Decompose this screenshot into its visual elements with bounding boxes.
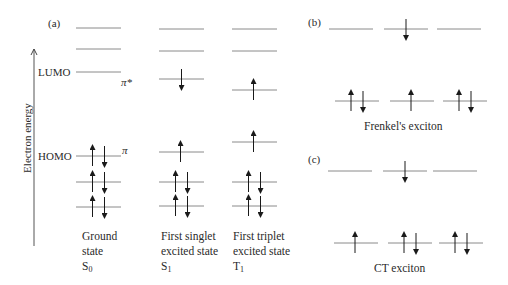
symbol-s1: S1: [161, 259, 218, 277]
ct-upper-level: [383, 161, 427, 180]
energy-level-col3: [232, 196, 277, 216]
caption-first-triplet: First triplet excited state T1: [233, 229, 290, 277]
frenkel-upper-level: [384, 19, 428, 38]
frenkel-lower-level: [335, 91, 379, 111]
panel-a-label: (a): [48, 17, 60, 30]
axis-label-electron-energy: Electron energy: [21, 93, 33, 183]
homo-label: HOMO: [38, 150, 72, 163]
energy-level-col3: [232, 172, 277, 192]
ct-lower-level: [388, 233, 432, 253]
energy-level-col2: [159, 69, 204, 88]
energy-level-col3: [232, 81, 277, 100]
levels-layer: [76, 19, 487, 253]
energy-level-col3: [232, 133, 277, 152]
caption-ground-state: Ground state S0: [82, 229, 117, 277]
panel-b-label: (b): [308, 16, 321, 29]
energy-level-col2: [159, 143, 204, 162]
ct-lower-level: [334, 234, 378, 253]
ct-lower-level: [439, 233, 483, 253]
frenkel-lower-level: [390, 92, 434, 111]
frenkel-lower-level: [443, 91, 487, 111]
energy-level-col2: [159, 196, 204, 216]
energy-level-col2: [159, 172, 204, 192]
energy-level-col1: [76, 172, 121, 192]
caption-first-singlet: First singlet excited state S1: [161, 229, 218, 277]
pi-label: π: [122, 144, 128, 157]
symbol-t1: T1: [233, 259, 290, 277]
caption-frenkel-exciton: Frenkel's exciton: [364, 119, 442, 134]
energy-level-col1: [76, 197, 121, 217]
symbol-s0: S0: [82, 259, 117, 277]
caption-ct-exciton: CT exciton: [374, 261, 425, 276]
pi-star-label: π*: [121, 76, 132, 89]
lumo-label: LUMO: [38, 66, 70, 79]
panel-c-label: (c): [308, 153, 320, 166]
energy-level-col1: [76, 146, 121, 166]
